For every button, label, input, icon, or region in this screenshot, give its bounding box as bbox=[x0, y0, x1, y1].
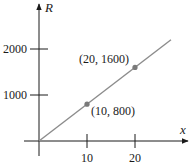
data-point bbox=[84, 102, 89, 107]
x-tick-label: 10 bbox=[81, 151, 93, 165]
chart-canvas: R x 10002000 1020 (10, 800)(20, 1600) bbox=[0, 0, 193, 166]
x-ticks: 1020 bbox=[81, 134, 141, 165]
y-tick-label: 1000 bbox=[3, 88, 27, 102]
points-layer: (10, 800)(20, 1600) bbox=[79, 52, 138, 118]
data-point bbox=[132, 65, 137, 70]
y-ticks: 10002000 bbox=[3, 42, 48, 102]
point-label: (20, 1600) bbox=[79, 52, 129, 66]
y-axis-label: R bbox=[44, 0, 53, 15]
point-label: (10, 800) bbox=[91, 104, 135, 118]
x-tick-label: 20 bbox=[129, 151, 141, 165]
x-axis-label: x bbox=[179, 122, 186, 137]
y-tick-label: 2000 bbox=[3, 42, 27, 56]
